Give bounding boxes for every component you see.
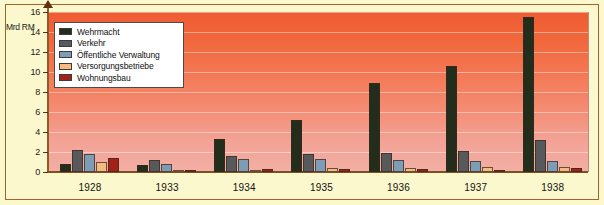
bar [339, 169, 350, 172]
bar [84, 154, 95, 172]
y-axis-line [47, 6, 49, 172]
x-tick-label: 1928 [48, 182, 132, 193]
y-tick-label: 8 [0, 88, 40, 97]
bar [369, 83, 380, 172]
bar [185, 170, 196, 173]
y-tick-mark [43, 12, 48, 13]
bar [405, 168, 416, 173]
bar [262, 169, 273, 172]
y-tick-mark [43, 172, 48, 173]
bar [60, 164, 71, 172]
bar [458, 151, 469, 172]
x-tick-label: 1934 [202, 182, 286, 193]
bar [173, 170, 184, 172]
legend-swatch-icon [59, 63, 72, 70]
y-tick-mark [43, 132, 48, 133]
bar [571, 168, 582, 172]
bar-group [446, 12, 506, 172]
y-tick-mark [43, 72, 48, 73]
bar-group [523, 12, 583, 172]
legend-swatch-icon [59, 40, 72, 47]
legend-item: Wohnungsbau [59, 72, 179, 84]
bar [523, 17, 534, 172]
bar [547, 161, 558, 172]
bar [291, 120, 302, 172]
chart-figure: Mrd RM 0246810121416 1928193319341935193… [0, 0, 604, 205]
bar-group [214, 12, 274, 172]
bar [226, 156, 237, 172]
y-tick-label: 2 [0, 148, 40, 157]
bar [137, 165, 148, 172]
bar [149, 160, 160, 172]
x-tick-label: 1936 [357, 182, 441, 193]
bar-group [369, 12, 429, 172]
y-tick-mark [43, 52, 48, 53]
bar [161, 164, 172, 172]
y-tick-label: 16 [0, 8, 40, 17]
bar [446, 66, 457, 172]
x-tick-label: 1935 [279, 182, 363, 193]
bar [327, 168, 338, 172]
bar [381, 153, 392, 172]
x-tick-label: 1933 [125, 182, 209, 193]
y-tick-mark [43, 92, 48, 93]
bar [72, 150, 83, 172]
chart-legend: WehrmachtVerkehrÖffentliche VerwaltungVe… [54, 22, 184, 88]
legend-label: Versorgungsbetriebe [77, 61, 154, 71]
legend-label: Wehrmacht [77, 27, 119, 37]
legend-swatch-icon [59, 74, 72, 81]
legend-label: Verkehr [77, 38, 106, 48]
bar [108, 158, 119, 172]
legend-item: Verkehr [59, 38, 179, 50]
x-tick-label: 1938 [511, 182, 595, 193]
y-tick-label: 12 [0, 48, 40, 57]
bar [315, 159, 326, 172]
y-axis-arrow-icon [43, 0, 53, 8]
legend-item: Wehrmacht [59, 26, 179, 38]
y-tick-label: 14 [0, 28, 40, 37]
y-tick-mark [43, 32, 48, 33]
y-tick-mark [43, 112, 48, 113]
y-tick-mark [43, 152, 48, 153]
legend-label: Öffentliche Verwaltung [77, 50, 160, 60]
bar [250, 170, 261, 172]
y-tick-label: 4 [0, 128, 40, 137]
bar [482, 167, 493, 172]
bar [303, 154, 314, 172]
bar [238, 159, 249, 172]
y-tick-label: 0 [0, 168, 40, 177]
legend-label: Wohnungsbau [77, 73, 131, 83]
x-tick-label: 1937 [434, 182, 518, 193]
bar [393, 160, 404, 172]
bar-group [291, 12, 351, 172]
bar [535, 140, 546, 172]
bar [214, 139, 225, 172]
bar [494, 170, 505, 173]
bar [96, 162, 107, 172]
bar [470, 161, 481, 172]
legend-item: Versorgungsbetriebe [59, 61, 179, 73]
bar [417, 169, 428, 172]
legend-item: Öffentliche Verwaltung [59, 49, 179, 61]
legend-swatch-icon [59, 28, 72, 35]
y-tick-label: 6 [0, 108, 40, 117]
legend-swatch-icon [59, 51, 72, 58]
bar [559, 167, 570, 172]
y-tick-label: 10 [0, 68, 40, 77]
